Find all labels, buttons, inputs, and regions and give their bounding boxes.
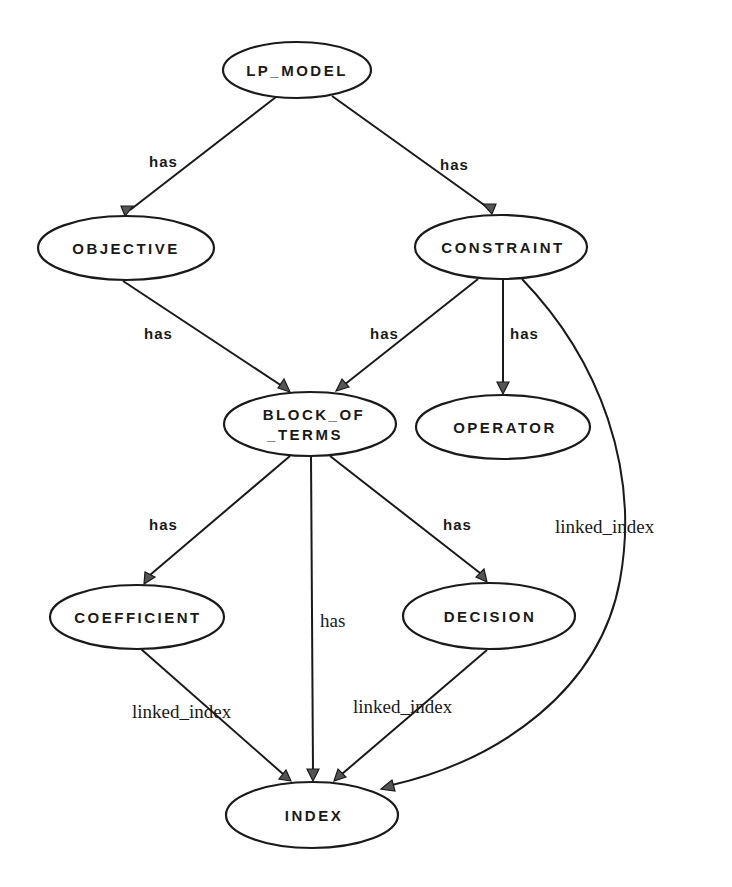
- edge-label-blockofterms-decision: has: [443, 516, 472, 533]
- edge-label-constraint-blockofterms: has: [370, 325, 399, 342]
- arrowhead-icon: [336, 379, 349, 391]
- node-index: INDEX: [226, 782, 398, 848]
- edge-label-lpmodel-objective: has: [149, 153, 178, 170]
- node-label-decision: DECISION: [444, 608, 537, 625]
- edge-label-coefficient-index: linked_index: [132, 701, 232, 722]
- edge-blockofterms-decision: [330, 456, 480, 573]
- edge-blockofterms-index: [311, 456, 313, 771]
- node-shape: [224, 392, 396, 456]
- edge-lpmodel-constraint: [332, 96, 487, 207]
- node-lp-model: LP_MODEL: [223, 42, 371, 98]
- node-label-block-of-terms-line1: BLOCK_OF: [263, 406, 366, 423]
- node-label-lp-model: LP_MODEL: [246, 62, 348, 79]
- lp-model-ontology-diagram: has has has has has linked_index has has…: [0, 0, 732, 887]
- node-constraint: CONSTRAINT: [415, 215, 587, 279]
- arrowhead-icon: [483, 204, 496, 214]
- node-label-constraint: CONSTRAINT: [441, 239, 564, 256]
- nodes: LP_MODEL OBJECTIVE CONSTRAINT BLOCK_OF _…: [38, 42, 590, 848]
- edge-label-constraint-operator: has: [510, 325, 539, 342]
- node-label-block-of-terms-line2: _TERMS: [266, 426, 343, 443]
- node-label-index: INDEX: [285, 807, 343, 824]
- arrowhead-icon: [121, 206, 133, 216]
- arrowhead-icon: [334, 769, 346, 781]
- node-label-operator: OPERATOR: [453, 419, 557, 436]
- node-coefficient: COEFFICIENT: [50, 585, 224, 649]
- edge-label-blockofterms-coefficient: has: [149, 516, 178, 533]
- edge-label-blockofterms-index: has: [320, 610, 345, 631]
- arrowhead-icon: [381, 780, 395, 791]
- node-decision: DECISION: [403, 583, 575, 649]
- node-block-of-terms: BLOCK_OF _TERMS: [224, 392, 396, 456]
- node-objective: OBJECTIVE: [38, 216, 214, 280]
- edge-label-lpmodel-constraint: has: [440, 156, 469, 173]
- arrowhead-icon: [497, 382, 509, 394]
- node-label-coefficient: COEFFICIENT: [74, 609, 202, 626]
- node-operator: OPERATOR: [416, 395, 590, 459]
- edge-label-objective-blockofterms: has: [144, 325, 173, 342]
- node-label-objective: OBJECTIVE: [72, 240, 180, 257]
- edge-label-decision-index: linked_index: [353, 696, 453, 717]
- arrowhead-icon: [307, 769, 319, 781]
- arrowhead-icon: [144, 572, 155, 584]
- edge-label-constraint-index: linked_index: [555, 516, 655, 537]
- arrowhead-icon: [278, 379, 290, 392]
- edge-constraint-blockofterms: [344, 279, 478, 385]
